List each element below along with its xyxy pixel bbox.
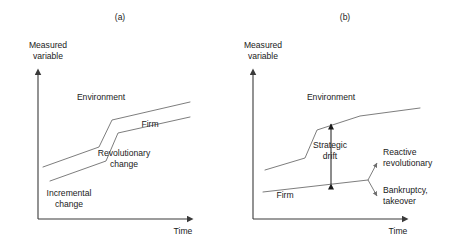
reactive-revolutionary-label-line2: revolutionary bbox=[383, 158, 433, 168]
reactive-revolutionary-label-line1: Reactive bbox=[383, 147, 417, 157]
panel-b-reactive-revolutionary-arm bbox=[368, 163, 377, 180]
figure-canvas: (a) Measured variable Time Environment F… bbox=[0, 0, 456, 251]
panel-a-incremental-change-label-line1: Incremental bbox=[47, 188, 92, 198]
panel-a-revolutionary-change-label-line1: Revolutionary bbox=[98, 148, 151, 158]
panel-b-firm-label: Firm bbox=[276, 190, 293, 200]
panel-a-revolutionary-change-label-line2: change bbox=[110, 159, 138, 169]
panel-a-caption: (a) bbox=[115, 12, 126, 22]
panel-a-y-axis-label-line2: variable bbox=[33, 51, 63, 61]
panel-b: (b) Measured variable Time Environment F… bbox=[244, 12, 433, 236]
panel-b-x-axis-label: Time bbox=[389, 226, 408, 236]
strategic-drift-label-line2: drift bbox=[323, 151, 338, 161]
strategic-drift-figure: (a) Measured variable Time Environment F… bbox=[0, 0, 456, 251]
panel-a-environment-label: Environment bbox=[77, 92, 126, 102]
panel-b-caption: (b) bbox=[340, 12, 351, 22]
bankruptcy-takeover-label-line2: takeover bbox=[383, 196, 416, 206]
panel-a: (a) Measured variable Time Environment F… bbox=[29, 12, 193, 236]
panel-b-y-axis-label-line2: variable bbox=[248, 51, 278, 61]
panel-a-firm-label: Firm bbox=[141, 119, 158, 129]
panel-a-y-axis-label-line1: Measured bbox=[29, 40, 67, 50]
bankruptcy-takeover-label-line1: Bankruptcy, bbox=[383, 185, 428, 195]
panel-b-y-axis-label-line1: Measured bbox=[244, 40, 282, 50]
panel-b-bankruptcy-takeover-arm bbox=[368, 180, 377, 196]
strategic-drift-label-line1: Strategic bbox=[313, 140, 348, 150]
panel-b-environment-label: Environment bbox=[307, 92, 356, 102]
panel-a-x-axis-label: Time bbox=[174, 226, 193, 236]
panel-a-incremental-change-label-line2: change bbox=[55, 199, 83, 209]
